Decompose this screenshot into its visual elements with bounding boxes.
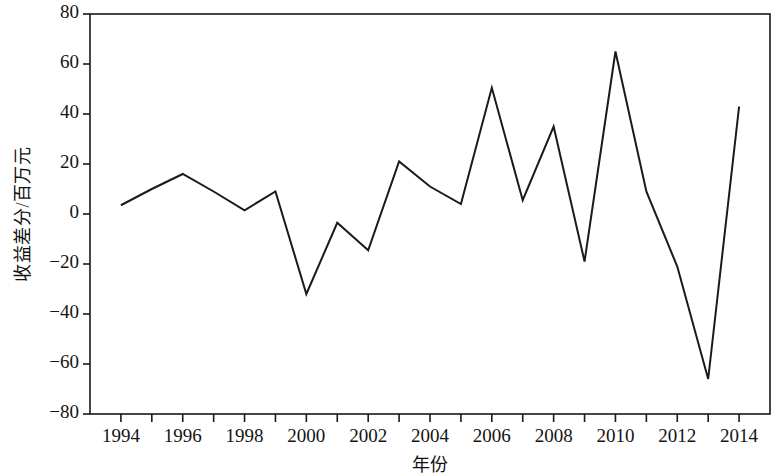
x-tick-label: 2014 — [709, 425, 769, 447]
y-tick-label: −40 — [49, 301, 79, 323]
y-tick-label: −20 — [49, 251, 79, 273]
y-axis-ticks — [83, 14, 90, 414]
x-axis-title: 年份 — [390, 450, 470, 476]
y-tick-label: 80 — [60, 1, 79, 23]
x-tick-label: 1996 — [153, 425, 213, 447]
x-tick-label: 1994 — [91, 425, 151, 447]
y-tick-label: 60 — [60, 51, 79, 73]
y-axis-title: 收益差分/百万元 — [8, 146, 34, 281]
y-tick-label: 40 — [60, 101, 79, 123]
y-tick-label: −80 — [49, 401, 79, 423]
x-tick-label: 2012 — [647, 425, 707, 447]
y-tick-label: 0 — [70, 201, 80, 223]
x-tick-label: 2000 — [276, 425, 336, 447]
y-tick-label: −60 — [49, 351, 79, 373]
x-tick-label: 2006 — [462, 425, 522, 447]
x-tick-label: 1998 — [215, 425, 275, 447]
x-tick-label: 2008 — [524, 425, 584, 447]
x-tick-label: 2010 — [585, 425, 645, 447]
x-tick-label: 2004 — [400, 425, 460, 447]
x-axis-ticks — [121, 414, 739, 422]
y-tick-label: 20 — [60, 151, 79, 173]
plot-frame — [90, 14, 770, 414]
x-tick-label: 2002 — [338, 425, 398, 447]
